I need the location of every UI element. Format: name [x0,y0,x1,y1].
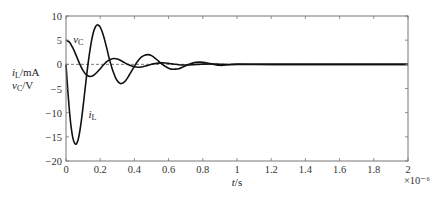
series-label-iL: iL [89,108,97,122]
x-tick-label: 1.2 [265,164,278,175]
y-tick-label: −20 [46,156,62,167]
y-axis-label-1: iL/mA [12,66,40,80]
x-tick-label: 1.4 [299,164,313,175]
y-tick-label: −10 [46,108,62,119]
x-tick-label: 0.4 [128,164,142,175]
y-tick-label: 0 [57,59,62,70]
x-tick-label: 0.2 [94,164,107,175]
y-tick-label: 10 [52,11,63,22]
y-tick-label: −5 [51,84,62,95]
x-axis-multiplier: ×10⁻⁶ [404,175,430,186]
x-tick-label: 1 [234,164,239,175]
y-tick-label: −15 [46,132,62,143]
series-line-iL [66,25,408,144]
y-axis-label-2: vC/V [12,79,33,93]
x-tick-label: 2 [405,164,410,175]
x-axis-label: t/s [232,176,242,188]
plot-frame [66,16,408,161]
chart: 00.20.40.60.811.21.41.61.82 1050−5−10−15… [0,0,435,197]
x-tick-label: 0.6 [162,164,175,175]
x-tick-label: 0.8 [196,164,209,175]
x-tick-label: 0 [63,164,68,175]
x-tick-label: 1.6 [333,164,346,175]
series-line-vC [66,40,408,76]
series-label-vC: vC [73,33,83,47]
x-tick-label: 1.8 [367,164,380,175]
y-tick-label: 5 [57,35,62,46]
